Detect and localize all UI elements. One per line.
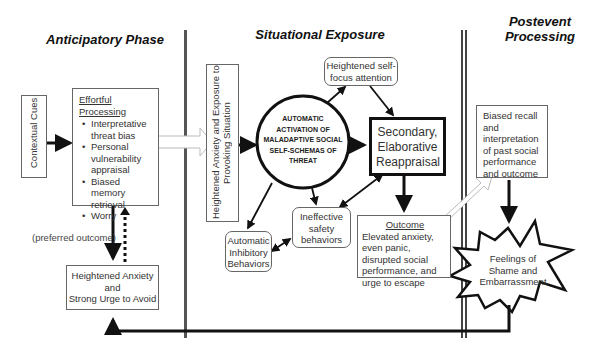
node-ineffective-safety: Ineffective safety behaviors	[292, 207, 351, 248]
outcome-title: Outcome	[362, 219, 448, 231]
anxiety-line-2: and	[67, 282, 158, 294]
node-outcome: Outcome Elevated anxiety, even panic, di…	[357, 215, 451, 278]
node-automatic-inhibitory: Automatic Inhibitory Behaviors	[225, 231, 272, 272]
effortful-item: Worry	[91, 210, 155, 222]
phase-situational: Situational Exposure	[240, 27, 400, 42]
node-secondary-reappraisal: Secondary, Elaborative Reappraisal	[369, 117, 446, 176]
effortful-item: Personal vulnerability appraisal	[91, 141, 155, 176]
contextual-cues-label: Contextual Cues	[28, 106, 39, 168]
phase-postevent-2: Processing	[490, 29, 590, 44]
effortful-title: Effortful Processing	[79, 94, 155, 117]
preferred-outcome-label: (preferred outcome)	[32, 232, 116, 243]
node-effortful-processing: Effortful Processing Interpretative thre…	[72, 88, 159, 206]
anxiety-line-1: Heightened Anxiety	[67, 270, 158, 282]
exposure-label: Heightened Anxiety and Exposure toProvok…	[210, 67, 232, 219]
anxiety-line-3: Strong Urge to Avoid	[67, 293, 158, 305]
effortful-item: Interpretative threat bias	[91, 118, 155, 141]
outcome-text: Elevated anxiety, even panic, disrupted …	[362, 231, 448, 289]
node-self-focus: Heightened self-focus attention	[324, 57, 398, 86]
node-shame: Feelings of Shame and Embarrassment	[478, 253, 548, 288]
effortful-list: Interpretative threat bias Personal vuln…	[81, 118, 155, 222]
phase-anticipatory: Anticipatory Phase	[30, 32, 180, 47]
node-contextual-cues: Contextual Cues	[21, 95, 47, 178]
divider-1	[184, 30, 187, 338]
effortful-item: Biased memory retrieval	[91, 176, 155, 211]
node-biased-recall: Biased recall and interpretation of past…	[476, 105, 548, 178]
node-heightened-anxiety-avoid: Heightened Anxiety and Strong Urge to Av…	[66, 265, 159, 310]
node-automatic-activation: Automatic activation of maladaptive soci…	[262, 114, 344, 167]
phase-postevent-1: Postevent	[490, 14, 590, 29]
node-exposure: Heightened Anxiety and Exposure toProvok…	[206, 64, 239, 222]
